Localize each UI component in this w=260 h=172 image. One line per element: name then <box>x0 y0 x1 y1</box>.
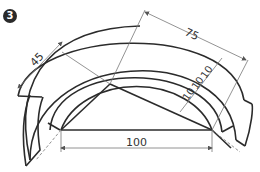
technical-drawing: 3 <box>0 0 260 172</box>
figure-number-badge: 3 <box>3 9 17 23</box>
right-band <box>212 100 252 148</box>
left-band <box>18 95 60 166</box>
dim-75-label: 75 <box>183 26 201 44</box>
arc-5 <box>26 26 140 160</box>
drawing-canvas: 45 75 100 10 10 10 <box>0 0 260 172</box>
dim-45-label: 45 <box>28 50 47 69</box>
dim-100-label: 100 <box>126 136 147 149</box>
